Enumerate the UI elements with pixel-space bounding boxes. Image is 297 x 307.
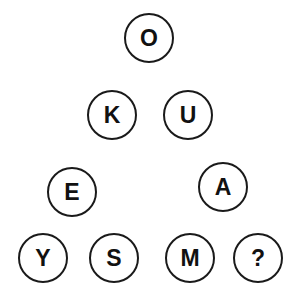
circle-node-unknown: ? bbox=[233, 233, 283, 283]
circle-node-row2-left: K bbox=[87, 90, 137, 140]
circle-node-row4-2: S bbox=[89, 233, 139, 283]
circle-node-row3-left: E bbox=[47, 167, 97, 217]
node-letter: A bbox=[215, 176, 232, 199]
node-letter: E bbox=[64, 181, 79, 204]
circle-node-row3-right: A bbox=[198, 162, 248, 212]
circle-node-row4-1: Y bbox=[18, 233, 68, 283]
circle-node-top: O bbox=[124, 13, 174, 63]
node-letter: K bbox=[104, 104, 121, 127]
node-letter: S bbox=[106, 247, 121, 270]
node-letter: U bbox=[180, 104, 197, 127]
puzzle-canvas: O K U E A Y S M ? bbox=[0, 0, 297, 307]
node-letter: O bbox=[140, 27, 158, 50]
node-letter: M bbox=[180, 247, 199, 270]
circle-node-row4-3: M bbox=[165, 233, 215, 283]
question-mark-icon: ? bbox=[251, 247, 265, 270]
circle-node-row2-right: U bbox=[163, 90, 213, 140]
node-letter: Y bbox=[35, 247, 50, 270]
